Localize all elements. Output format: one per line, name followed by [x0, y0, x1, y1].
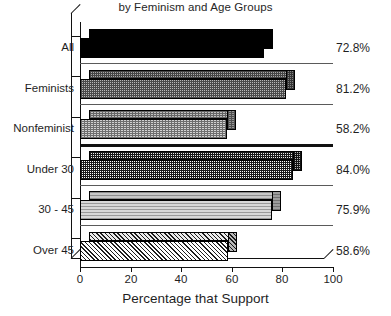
bar-side-under-30: [293, 151, 302, 171]
gridline-row-4: [80, 185, 333, 186]
y-tick-0: [71, 36, 80, 37]
category-label-nonfeminist: Nonfeminist: [0, 122, 74, 134]
x-axis-line: [80, 267, 333, 268]
bar-top-over-45: [89, 232, 237, 241]
x-axis-title: Percentage that Support: [0, 291, 391, 306]
x-tick-label-0: 0: [60, 273, 100, 285]
gridline-row-2: [80, 104, 333, 105]
bar-side-feminists: [286, 70, 295, 90]
x-tick-80: [282, 267, 283, 272]
x-tick-label-60: 60: [212, 273, 252, 285]
axis-corner-top: [71, 4, 81, 14]
y-tick-1: [71, 76, 80, 77]
bar-nonfeminist[interactable]: [80, 119, 227, 139]
bar-top-30-45: [89, 191, 281, 200]
gridline-row-3: [80, 144, 333, 147]
x-tick-label-80: 80: [262, 273, 302, 285]
bar-under-30[interactable]: [80, 160, 293, 180]
x-tick-100: [333, 267, 334, 272]
bar-side-over-45: [228, 232, 237, 252]
x-tick-60: [232, 267, 233, 272]
bar-all[interactable]: [80, 38, 264, 58]
x-tick-20: [131, 267, 132, 272]
value-label-over-45: 58.6%: [336, 244, 391, 258]
x-tick-40: [181, 267, 182, 272]
bar-top-all: [89, 29, 273, 38]
value-label-30-45: 75.9%: [336, 203, 391, 217]
category-label-all: All: [0, 41, 74, 53]
x-tick-label-40: 40: [161, 273, 201, 285]
gridline-row-1: [80, 63, 333, 64]
category-label-30-45: 30 - 45: [0, 203, 74, 215]
x-tick-label-100: 100: [313, 273, 353, 285]
bar-over-45[interactable]: [80, 241, 228, 261]
gridline-row-5: [80, 225, 333, 226]
bar-side-nonfeminist: [227, 110, 236, 130]
x-tick-label-20: 20: [111, 273, 151, 285]
bar-feminists[interactable]: [80, 79, 286, 99]
value-label-feminists: 81.2%: [336, 82, 391, 96]
bar-top-nonfeminist: [89, 110, 236, 119]
bar-30-45[interactable]: [80, 200, 272, 220]
bar-chart: by Feminism and Age Groups 0 20 40 60 80…: [0, 0, 391, 316]
value-label-all: 72.8%: [336, 41, 391, 55]
value-label-under-30: 84.0%: [336, 163, 391, 177]
x-tick-0: [80, 267, 81, 272]
bar-side-30-45: [272, 191, 281, 211]
y-tick-3: [71, 157, 80, 158]
bar-top-under-30: [89, 151, 302, 160]
value-label-nonfeminist: 58.2%: [336, 122, 391, 136]
category-label-over-45: Over 45: [0, 244, 74, 256]
bar-side-all: [264, 29, 273, 49]
y-tick-2: [71, 117, 80, 118]
axis-corner-right: [324, 249, 334, 259]
category-label-feminists: Feminists: [0, 82, 74, 94]
category-label-under-30: Under 30: [0, 163, 74, 175]
y-tick-5: [71, 238, 80, 239]
y-tick-4: [71, 198, 80, 199]
bar-top-feminists: [89, 70, 295, 79]
plot-area: 0 20 40 60 80 100 All 72.8% Feminists 81…: [0, 0, 391, 316]
